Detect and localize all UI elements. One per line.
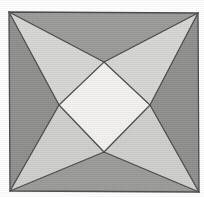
geometric-figure-canvas: Four-pointed star inscribed in a square (0, 0, 204, 197)
four-pointed-star-figure: Four-pointed star inscribed in a square (0, 0, 204, 197)
